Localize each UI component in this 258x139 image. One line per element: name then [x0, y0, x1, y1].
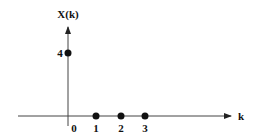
x-tick-label-2: 2	[118, 122, 124, 134]
x-tick-label-0: 0	[71, 122, 77, 134]
x-tick-label-3: 3	[142, 122, 148, 134]
x-axis-label: k	[238, 110, 245, 122]
y-tick-label-4: 4	[57, 47, 63, 59]
data-point-k2	[118, 113, 125, 120]
data-point-k3	[142, 113, 149, 120]
data-point-k0	[65, 50, 72, 57]
x-tick-label-1: 1	[93, 122, 99, 134]
data-point-k1	[93, 113, 100, 120]
y-axis-label: X(k)	[57, 8, 79, 21]
stem-plot-diagram: X(k) k 4 0 1 2 3	[0, 0, 258, 139]
